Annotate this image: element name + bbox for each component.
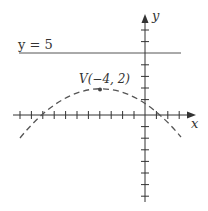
line-label: y = 5 bbox=[17, 37, 53, 52]
y-axis-arrow-icon bbox=[142, 14, 149, 23]
vertex-label: V(−4, 2) bbox=[79, 72, 130, 86]
x-axis-label: x bbox=[191, 116, 199, 131]
vertex-point bbox=[98, 88, 102, 92]
y-axis-label: y bbox=[151, 8, 160, 23]
graph: y = 5 V(−4, 2) x y bbox=[0, 0, 208, 211]
